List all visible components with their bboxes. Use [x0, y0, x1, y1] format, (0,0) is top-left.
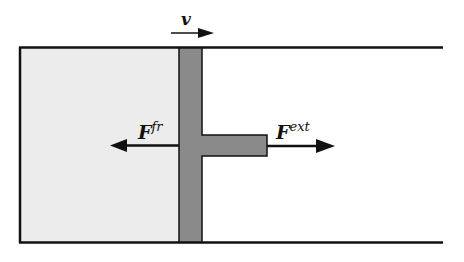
friction-force-symbol: F [138, 121, 152, 143]
friction-force-superscript: fr [152, 119, 163, 134]
external-force-symbol: F [276, 121, 290, 143]
external-force-superscript: ext [290, 119, 310, 134]
velocity-symbol: v [181, 9, 191, 29]
piston [179, 48, 267, 242]
friction-force-label: Ffr [138, 121, 163, 143]
external-force-label: Fext [276, 121, 310, 143]
velocity-arrow-icon [171, 28, 214, 38]
piston-diagram [0, 0, 464, 262]
velocity-label: v [181, 9, 191, 29]
